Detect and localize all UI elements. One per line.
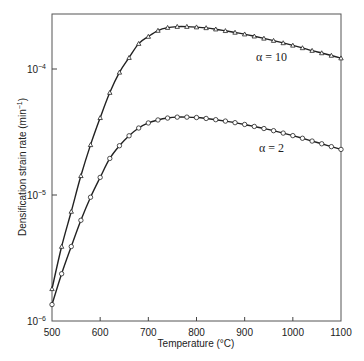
triangle-marker [214,27,218,31]
circle-marker [69,244,73,248]
y-tick-label: 10−5 [27,189,46,201]
circle-marker [50,302,54,306]
circle-marker [79,218,83,222]
plot-frame [52,14,341,321]
triangle-marker [108,90,112,94]
triangle-marker [98,116,102,120]
circle-marker [271,128,275,132]
series-alpha-2 [50,115,343,307]
triangle-marker [281,41,285,45]
x-axis-label: Temperature (°C) [158,338,235,349]
triangle-marker [242,32,246,36]
circle-marker [59,272,63,276]
triangle-marker [320,51,324,55]
circle-marker [165,116,169,120]
triangle-marker [271,38,275,42]
triangle-marker [262,36,266,40]
triangle-marker [59,244,63,248]
triangle-marker [233,30,237,34]
circle-marker [117,144,121,148]
x-tick-label: 800 [188,327,205,338]
triangle-marker [291,43,295,47]
triangle-marker [300,46,304,50]
triangle-marker [156,28,160,32]
triangle-marker [329,53,333,57]
triangle-marker [175,24,179,28]
circle-marker [146,121,150,125]
x-tick-label: 1000 [282,327,305,338]
x-tick-label: 600 [92,327,109,338]
triangle-marker [339,56,343,60]
triangle-marker [165,25,169,29]
triangle-marker [79,174,83,178]
circle-marker [339,147,343,151]
circle-marker [300,136,304,140]
circle-marker [88,195,92,199]
x-tick-label: 500 [44,327,61,338]
series-line [52,27,341,289]
data-series [50,24,343,306]
circle-marker [98,175,102,179]
circle-marker [137,126,141,130]
circle-marker [223,119,227,123]
circle-marker [204,116,208,120]
circle-marker [242,122,246,126]
circle-marker [281,131,285,135]
series-line [52,117,341,305]
triangle-marker [194,25,198,29]
x-tick-label: 700 [140,327,157,338]
x-axis-ticks: 50060070080090010001100 [44,317,353,338]
circle-marker [108,156,112,160]
x-tick-label: 1100 [330,327,352,338]
circle-marker [320,142,324,146]
y-axis-label-sup: −1 [16,101,23,109]
circle-marker [329,144,333,148]
series-alpha-10 [50,24,343,290]
circle-marker [175,115,179,119]
circle-marker [194,115,198,119]
y-axis-label-main: Densification strain rate (min [17,109,28,236]
series-label-alpha-2: α = 2 [259,141,284,155]
circle-marker [214,117,218,121]
triangle-marker [50,287,54,291]
circle-marker [291,133,295,137]
y-tick-label: 10−6 [27,315,46,327]
strain-rate-chart: 50060070080090010001100 10−610−510−4 α =… [0,0,364,361]
triangle-marker [185,24,189,28]
circle-marker [252,124,256,128]
y-axis-label: Densification strain rate (min−1) [16,98,28,236]
y-tick-label: 10−4 [27,63,46,75]
circle-marker [127,134,131,138]
triangle-marker [204,26,208,30]
triangle-marker [88,143,92,147]
triangle-marker [223,29,227,33]
circle-marker [310,139,314,143]
triangle-marker [69,209,73,213]
y-axis-label-end: ) [17,98,28,101]
circle-marker [233,120,237,124]
x-tick-label: 900 [236,327,253,338]
circle-marker [262,126,266,130]
circle-marker [185,115,189,119]
plot-border [52,14,341,321]
triangle-marker [252,34,256,38]
circle-marker [156,118,160,122]
triangle-marker [310,48,314,52]
series-label-alpha-10: α = 10 [256,50,287,64]
